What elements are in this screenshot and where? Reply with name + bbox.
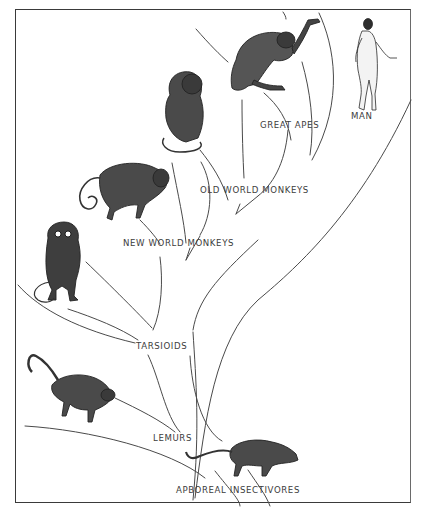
sitting-monkey-icon: [163, 72, 203, 152]
tarsioid-right: [193, 240, 258, 330]
trunk-branch-center: [193, 332, 197, 500]
label-tarsioids: TARSIOIDS: [136, 341, 187, 351]
ga-branch-3: [264, 93, 291, 140]
nwm-branch-3: [200, 162, 210, 235]
label-lemurs: LEMURS: [153, 433, 192, 443]
lemur-branch-1: [115, 398, 175, 432]
tarsier-icon: [34, 222, 80, 302]
label-arboreal-insectivores: APBOREAL INSECTIVORES: [176, 485, 300, 495]
ga-branch-1: [196, 29, 228, 62]
owm-branch-2: [242, 100, 244, 178]
tree-shrew-icon: [186, 440, 298, 476]
human-figure-icon: [356, 19, 397, 111]
label-great-apes: GREAT APES: [260, 120, 319, 130]
nwm-branch-2: [172, 163, 186, 243]
ga-branch-5: [312, 13, 334, 160]
label-man: MAN: [351, 111, 373, 121]
tarsioid-branch-2: [68, 309, 138, 340]
trunk-branch-man: [195, 100, 411, 498]
lemur-icon: [29, 355, 115, 422]
ga-branch-2: [283, 12, 286, 19]
lemur-branch-2: [148, 355, 180, 432]
curled-tail-monkey-icon: [80, 163, 169, 220]
label-new-world-monkeys: NEW WORLD MONKEYS: [123, 238, 234, 248]
label-old-world-monkeys: OLD WORLD MONKEYS: [200, 185, 309, 195]
tarsioid-branch-3: [86, 262, 152, 328]
tarsioid-branch-4: [153, 257, 162, 330]
ga-branch-4: [302, 62, 312, 155]
evolution-tree: [0, 0, 427, 512]
tarsioid-branch-1: [18, 285, 135, 343]
